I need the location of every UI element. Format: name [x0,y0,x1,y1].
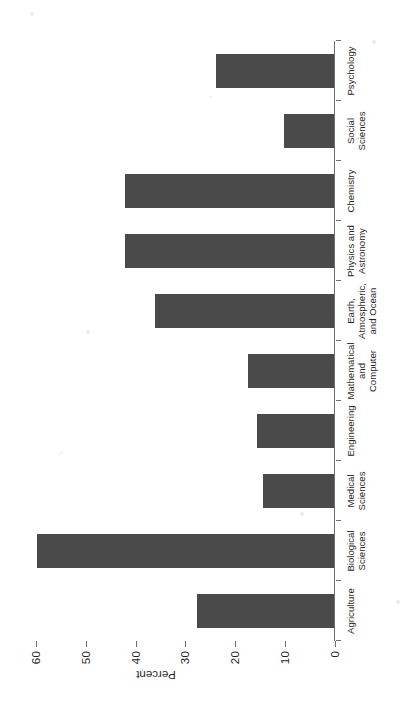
category-label-line: Agriculture [345,588,356,634]
category-axis-tick [336,340,341,341]
value-axis-tick [335,641,336,647]
category-label-line: and Ocean [367,288,378,335]
bar [37,534,334,568]
value-axis-tick [136,641,137,647]
bar [125,174,334,208]
category-axis-label: Agriculture [345,581,356,641]
category-axis-label: Physics andAstronomy [345,221,367,281]
category-axis-tick [336,580,341,581]
category-label-line: Medical [345,474,356,507]
bar [248,354,334,388]
scanned-chart-page: Percent 010203040506070 AgricultureBiolo… [0,0,418,703]
value-axis-tick [235,641,236,647]
scan-speckle [60,452,62,454]
category-label-line: Biological [345,530,356,571]
value-axis-tick-label: 10 [279,651,291,664]
category-axis-tick [336,100,341,101]
value-axis-tick-label: 20 [229,651,241,664]
bar [284,114,334,148]
rotated-chart-container: Percent 010203040506070 AgricultureBiolo… [0,0,418,703]
category-axis-label: Psychology [345,41,356,101]
scan-speckle [210,96,212,98]
category-axis-tick [336,160,341,161]
category-label-line: Engineering [345,405,356,456]
scan-speckle [140,668,144,672]
value-axis-tick [86,641,87,647]
bar [155,294,334,328]
category-label-line: Psychology [345,46,356,95]
scan-speckle [86,330,90,334]
scan-speckle [300,512,304,516]
bar-chart: Percent 010203040506070 AgricultureBiolo… [0,0,418,703]
value-axis-tick-label: 0 [329,651,341,658]
value-axis: Percent 010203040506070 [0,641,335,703]
category-axis-label: SocialSciences [345,101,367,161]
scan-speckle [372,40,376,44]
category-label-line: and [356,363,367,379]
category-axis-tick [336,640,341,641]
category-axis: AgricultureBiologicalSciencesMedicalScie… [336,41,418,641]
category-axis-label: Earth,Atmospheric,and Ocean [345,281,378,341]
category-axis-label: MathematicalandComputer [345,341,378,401]
category-axis-label: BiologicalSciences [345,521,367,581]
category-axis-tick [336,520,341,521]
category-label-line: Sciences [356,112,367,151]
category-axis-label: MedicalSciences [345,461,367,521]
plot-area [0,41,335,641]
category-label-line: Sciences [356,472,367,511]
value-axis-tick-label: 30 [179,651,191,664]
category-label-line: Computer [367,350,378,392]
category-label-line: Sciences [356,532,367,571]
value-axis-tick-label: 40 [130,651,142,664]
scan-speckle [30,12,34,16]
value-axis-tick [185,641,186,647]
category-label-line: Physics and [345,225,356,277]
value-axis-tick-label: 60 [30,651,42,664]
category-axis-tick [336,220,341,221]
scan-speckle [396,600,400,604]
category-axis-label: Chemistry [345,161,356,221]
bar [197,594,334,628]
bar [216,54,334,88]
value-axis-tick [285,641,286,647]
bar [125,234,334,268]
bar-series [0,41,335,641]
category-axis-tick [336,280,341,281]
category-axis-label: Engineering [345,401,356,461]
category-label-line: Atmospheric, [356,283,367,339]
category-axis-tick [336,460,341,461]
category-axis-tick [336,40,341,41]
category-label-line: Social [345,118,356,144]
category-label-line: Mathematical [345,342,356,399]
bar [257,414,334,448]
category-label-line: Astronomy [356,228,367,274]
value-axis-title: Percent [126,669,186,681]
value-axis-tick [36,641,37,647]
bar [263,474,334,508]
value-axis-tick-label: 50 [80,651,92,664]
category-label-line: Chemistry [345,169,356,212]
category-axis-tick [336,400,341,401]
category-label-line: Earth, [345,298,356,324]
